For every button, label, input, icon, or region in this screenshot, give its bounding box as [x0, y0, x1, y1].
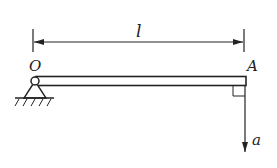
acceleration-label: a [252, 131, 261, 149]
right-angle-marker [233, 86, 245, 96]
pivot-label: O [29, 57, 41, 75]
beam-diagram: l O A a [0, 0, 277, 168]
pivot-hinge-icon [31, 77, 39, 85]
ground-hatch [15, 99, 51, 106]
length-label: l [136, 21, 141, 41]
pivot-support [15, 77, 54, 106]
beam [36, 77, 246, 86]
end-label: A [245, 57, 258, 75]
